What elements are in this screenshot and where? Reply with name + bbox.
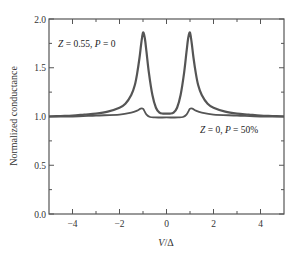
x-tick-label: −2 (114, 219, 124, 229)
annotation-z055-p0: Z = 0.55, P = 0 (58, 39, 116, 49)
x-tick-label: 0 (164, 219, 169, 229)
y-tick-label: 2.0 (34, 15, 46, 25)
y-tick-label: 0.0 (34, 210, 46, 220)
x-tick-label: 4 (258, 219, 263, 229)
annot1-pval: = 0 (101, 39, 116, 49)
annot2-pval: = 50% (231, 125, 259, 135)
x-axis-title-rest: /Δ (164, 237, 174, 248)
y-axis-title: Normalized conductance (8, 66, 19, 166)
x-tick-label: 2 (211, 219, 216, 229)
x-tick-label: −4 (67, 219, 77, 229)
y-tick-label: 1.0 (34, 112, 46, 122)
annot1-zval: = 0.55, (63, 39, 94, 49)
conductance-chart: −4−20240.00.51.01.52.0 Normalized conduc… (0, 0, 300, 258)
y-tick-label: 0.5 (34, 161, 46, 171)
annotation-z0-p50: Z = 0, P = 50% (200, 125, 258, 135)
x-axis-title: V/Δ (158, 237, 174, 248)
y-tick-label: 1.5 (34, 63, 46, 73)
annot2-zval: = 0, (205, 125, 225, 135)
